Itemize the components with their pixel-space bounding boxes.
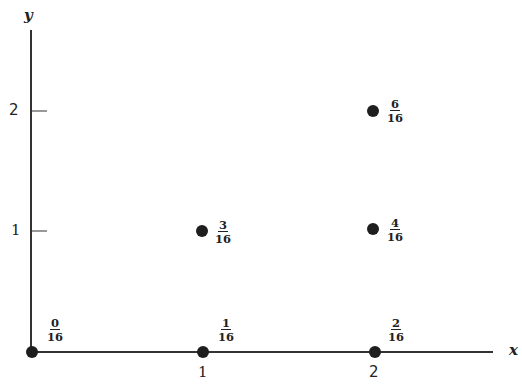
- point-label-1-0: 1 16: [218, 317, 234, 343]
- fraction-denominator: 16: [387, 111, 403, 124]
- x-tick-label-1: 1: [198, 363, 208, 381]
- data-point-2-0: [369, 346, 381, 358]
- fraction-numerator: 6: [390, 98, 400, 111]
- point-label-2-1: 4 16: [387, 217, 403, 243]
- fraction-numerator: 3: [218, 219, 228, 232]
- fraction-denominator: 16: [218, 330, 234, 343]
- point-label-2-0: 2 16: [388, 317, 404, 343]
- point-label-1-1: 3 16: [215, 219, 231, 245]
- fraction-denominator: 16: [387, 230, 403, 243]
- y-tick-label-2: 2: [9, 101, 19, 119]
- point-label-0-0: 0 16: [47, 317, 63, 343]
- fraction-denominator: 16: [388, 330, 404, 343]
- x-tick-label-2: 2: [369, 363, 379, 381]
- point-label-2-2: 6 16: [387, 98, 403, 124]
- axes-lines: [0, 0, 522, 390]
- data-point-0-0: [26, 346, 38, 358]
- x-axis-label: x: [509, 341, 518, 359]
- data-point-1-0: [197, 346, 209, 358]
- fraction-numerator: 4: [390, 217, 400, 230]
- fraction-numerator: 0: [50, 317, 60, 330]
- data-point-2-1: [367, 223, 379, 235]
- fraction-denominator: 16: [47, 330, 63, 343]
- data-point-1-1: [196, 225, 208, 237]
- fraction-numerator: 1: [221, 317, 231, 330]
- y-axis-label: y: [24, 6, 33, 24]
- y-tick-label-1: 1: [11, 221, 21, 239]
- fraction-numerator: 2: [391, 317, 401, 330]
- fraction-denominator: 16: [215, 232, 231, 245]
- data-point-2-2: [367, 105, 379, 117]
